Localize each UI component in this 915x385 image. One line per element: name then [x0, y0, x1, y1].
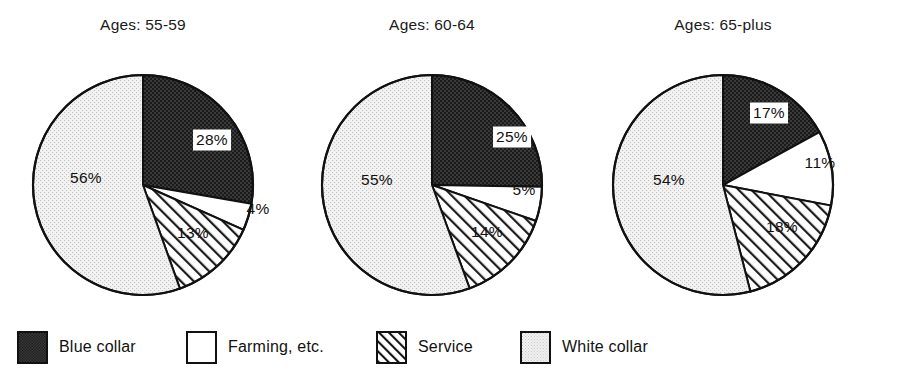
legend-item-blue-collar[interactable]: Blue collar [17, 326, 136, 368]
slice-value-blue-collar: 17% [750, 103, 788, 124]
legend-item-farming[interactable]: Farming, etc. [186, 326, 324, 368]
slice-value-service: 18% [766, 218, 798, 236]
pie-chart-figure: Ages: 55-59 Ages: 60-64 Ages: 65-plus [0, 0, 915, 385]
legend-swatch-service-icon [376, 331, 407, 364]
legend-label-farming: Farming, etc. [228, 338, 324, 356]
slice-value-white-collar: 56% [70, 169, 102, 187]
slice-value-white-collar: 54% [653, 171, 685, 189]
slice-value-blue-collar: 25% [493, 127, 531, 148]
pie-ages-60-64 [322, 75, 542, 295]
legend-label-white-collar: White collar [562, 338, 648, 356]
slice-value-blue-collar: 28% [193, 130, 231, 151]
legend-swatch-farming-icon [186, 331, 217, 364]
legend: Blue collar Farming, etc. Service [0, 326, 915, 374]
legend-label-blue-collar: Blue collar [59, 338, 136, 356]
slice-value-service: 14% [471, 223, 503, 241]
legend-label-service: Service [418, 338, 473, 356]
slice-value-farming: 5% [512, 181, 535, 199]
slice-value-service: 13% [177, 224, 209, 242]
legend-swatch-white-collar-icon [520, 331, 551, 364]
legend-item-service[interactable]: Service [376, 326, 473, 368]
slice-value-farming: 4% [246, 200, 269, 218]
legend-item-white-collar[interactable]: White collar [520, 326, 648, 368]
pie-ages-55-59 [33, 75, 253, 295]
slice-value-farming: 11% [805, 154, 836, 172]
legend-swatch-blue-collar-icon [17, 331, 48, 364]
slice-value-white-collar: 55% [361, 171, 393, 189]
pie-ages-65-plus [613, 75, 833, 295]
